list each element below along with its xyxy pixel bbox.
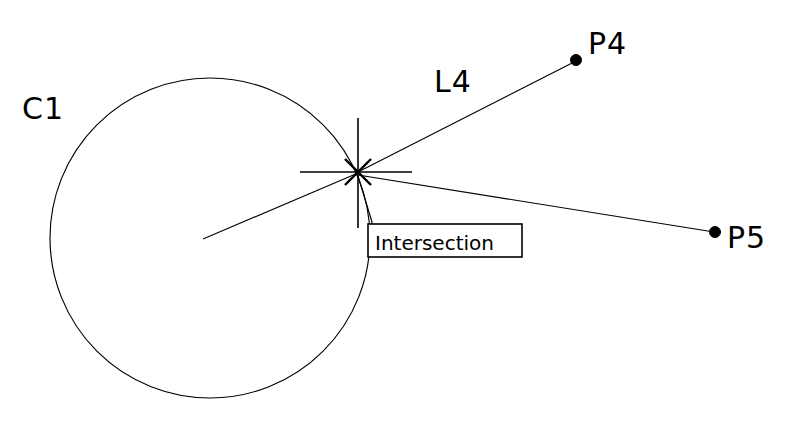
cad-drawing-canvas: C1 L4 P4 P5 Intersection [0, 0, 808, 422]
label-p5: P5 [727, 220, 766, 255]
cad-viewport: C1 L4 P4 P5 Intersection [0, 0, 808, 422]
label-c1: C1 [22, 91, 64, 126]
point-marker-p5[interactable] [710, 227, 721, 238]
radius-line[interactable] [203, 173, 358, 239]
label-p4: P4 [588, 26, 627, 61]
circle-c1[interactable] [50, 78, 370, 398]
label-l4: L4 [434, 64, 472, 99]
tooltip-label: Intersection [375, 231, 494, 255]
point-marker-p4[interactable] [571, 55, 582, 66]
